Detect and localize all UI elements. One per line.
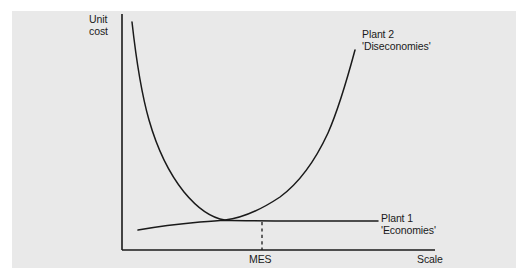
- y-axis-label: Unit cost: [89, 13, 108, 37]
- plant2-curve: [132, 22, 355, 220]
- x-axis-label: Scale: [417, 253, 443, 265]
- mes-label: MES: [249, 253, 271, 265]
- curves-group: [132, 22, 378, 230]
- y-axis-label-line2: cost: [89, 25, 108, 37]
- plant1-curve: [138, 220, 378, 230]
- plant2-annotation-line1: Plant 2: [362, 28, 394, 40]
- plant1-annotation-line2: 'Economies': [381, 224, 436, 236]
- figure-container: Unit cost Plant 2 'Diseconomies' Plant 1…: [0, 0, 528, 280]
- plant2-annotation: Plant 2 'Diseconomies': [362, 28, 431, 52]
- economies-of-scale-chart: [0, 0, 528, 280]
- plant1-annotation-line1: Plant 1: [381, 212, 413, 224]
- plant2-annotation-line2: 'Diseconomies': [362, 40, 431, 52]
- y-axis-label-line1: Unit: [89, 13, 107, 25]
- plant1-annotation: Plant 1 'Economies': [381, 212, 436, 236]
